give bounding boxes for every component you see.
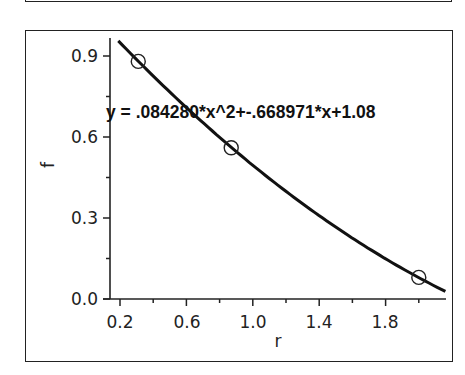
y-tick-label: 0.9 [71, 46, 98, 66]
x-axis-label: r [275, 331, 282, 351]
y-tick-label: 0.6 [71, 127, 98, 147]
fit-curve [118, 41, 445, 292]
quadratic-fit-chart: 0.9 0.6 0.3 0.0 0.2 0.6 1.0 1.4 1.8 r f … [0, 0, 465, 375]
x-tick-label: 1.8 [371, 312, 398, 332]
y-tick-label: 0.0 [71, 289, 98, 309]
data-points [131, 54, 426, 284]
x-tick-label: 0.2 [106, 312, 133, 332]
y-tick-label: 0.3 [71, 208, 98, 228]
x-tick-label: 1.0 [239, 312, 266, 332]
x-tick-label: 0.6 [173, 312, 200, 332]
fit-equation: y = .084280*x^2+-.668971*x+1.08 [106, 102, 376, 122]
y-axis-label: f [38, 161, 58, 168]
x-ticks [120, 299, 419, 306]
y-ticks [103, 56, 110, 299]
x-tick-label: 1.4 [305, 312, 332, 332]
